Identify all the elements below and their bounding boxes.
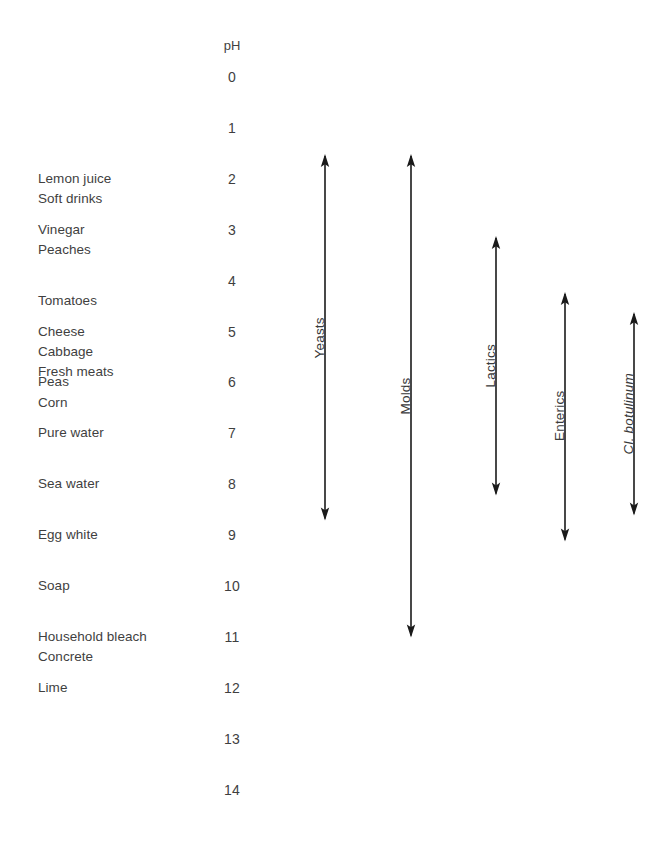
- ph-tick-6: 6: [192, 374, 272, 390]
- ph-tick-5: 5: [192, 324, 272, 340]
- ph-tick-1: 1: [192, 120, 272, 136]
- organism-range-label: Molds: [398, 378, 413, 415]
- ph-tick-3: 3: [192, 222, 272, 238]
- ph-tick-14: 14: [192, 782, 272, 798]
- substance-label: Soap: [38, 578, 70, 593]
- ph-tick-7: 7: [192, 425, 272, 441]
- substance-label: Peaches: [38, 242, 91, 257]
- substance-label: Lime: [38, 680, 67, 695]
- substance-label: Soft drinks: [38, 191, 102, 206]
- ph-tick-9: 9: [192, 527, 272, 543]
- ph-tick-13: 13: [192, 731, 272, 747]
- organism-range-label: Enterics: [552, 391, 567, 441]
- ph-tick-4: 4: [192, 273, 272, 289]
- ph-tick-11: 11: [192, 629, 272, 645]
- ph-tick-0: 0: [192, 69, 272, 85]
- substance-label: Concrete: [38, 649, 93, 664]
- ph-tick-12: 12: [192, 680, 272, 696]
- ph-tick-2: 2: [192, 171, 272, 187]
- substance-label: Pure water: [38, 425, 104, 440]
- ph-tick-8: 8: [192, 476, 272, 492]
- organism-range-label: Yeasts: [312, 317, 327, 358]
- substance-label: Lemon juice: [38, 171, 111, 186]
- ph-scale-diagram: pH 01234567891011121314 Lemon juiceSoft …: [0, 0, 672, 842]
- organism-range-label: Lactics: [483, 344, 498, 387]
- substance-label: Sea water: [38, 476, 99, 491]
- ph-tick-10: 10: [192, 578, 272, 594]
- substance-label: Vinegar: [38, 222, 85, 237]
- substance-label: Cheese: [38, 324, 85, 339]
- substance-label: Tomatoes: [38, 293, 97, 308]
- substance-label: Corn: [38, 395, 67, 410]
- organism-range-label: Cl. botulinum: [621, 373, 636, 454]
- substance-label: Household bleach: [38, 629, 147, 644]
- substance-label: Peas: [38, 374, 69, 389]
- substance-label: Egg white: [38, 527, 98, 542]
- substance-label: Cabbage: [38, 344, 93, 359]
- ph-axis-header: pH: [192, 38, 272, 53]
